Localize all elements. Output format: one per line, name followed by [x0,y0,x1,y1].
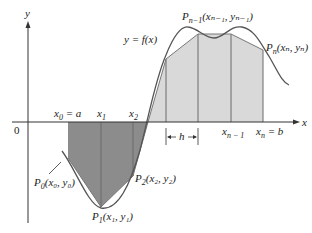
diagram-canvas: x y 0 y = f(x) x0 = a x1 x2 xn − 1 xn = … [0,0,312,233]
x-axis-label: x [301,116,307,128]
label-P0: P0(x₀, y₀) [33,176,75,191]
label-P2: P2(x₂, y₂) [134,172,176,187]
label-Pn: Pn(xₙ, yₙ) [265,41,309,56]
label-P1: P1(x₁, y₁) [91,210,133,225]
trapezoidal-rule-figure: x y 0 y = f(x) x0 = a x1 x2 xn − 1 xn = … [0,0,312,233]
tick-x1: x1 [96,107,106,122]
h-label: h [179,130,185,142]
tick-x2: x2 [128,107,138,122]
tick-x0: x0 = a [53,107,82,122]
trapezoid-region-above [148,34,263,122]
label-Pn-1: Pn−1(xₙ₋₁, yₙ₋₁) [181,10,253,25]
origin-label: 0 [14,124,20,136]
tick-xn-1: xn − 1 [221,125,244,140]
p0-leader-line [49,162,61,174]
tick-xn: xn = b [255,125,284,140]
curve-label: y = f(x) [123,33,157,46]
h-right-arrow-icon [193,135,197,139]
y-axis-label: y [24,7,30,19]
h-left-arrow-icon [167,135,171,139]
y-axis-arrow-icon [26,21,31,28]
x-axis-arrow-icon [293,120,300,125]
